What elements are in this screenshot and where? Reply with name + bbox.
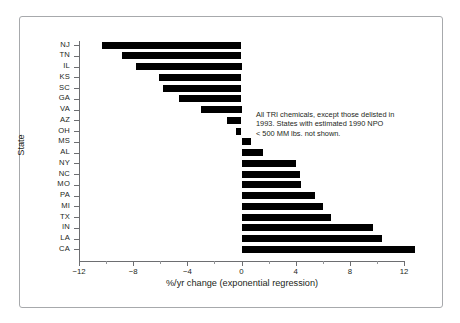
y-tick-ca <box>74 249 79 250</box>
bar-az <box>227 117 242 124</box>
annotation-line-1: All TRI chemicals, except those delisted… <box>256 110 406 119</box>
x-tick-label--8: −8 <box>113 267 153 276</box>
y-tick-label-al: AL <box>30 148 70 156</box>
bar-tx <box>242 214 331 221</box>
y-tick-label-mi: MI <box>30 202 70 210</box>
y-tick-ms <box>74 142 79 143</box>
y-tick-label-il: IL <box>30 62 70 70</box>
bar-ny <box>242 160 296 167</box>
y-tick-label-tx: TX <box>30 213 70 221</box>
y-tick-nc <box>74 174 79 175</box>
x-tick-label--4: −4 <box>167 267 207 276</box>
y-tick-label-pa: PA <box>30 191 70 199</box>
x-tick-minor--2 <box>214 261 215 264</box>
y-tick-al <box>74 153 79 154</box>
bar-mo <box>242 181 302 188</box>
y-tick-va <box>74 110 79 111</box>
y-tick-ga <box>74 99 79 100</box>
y-tick-sc <box>74 88 79 89</box>
y-tick-label-ga: GA <box>30 94 70 102</box>
bar-la <box>242 235 383 242</box>
x-tick-label-12: 12 <box>384 267 424 276</box>
annotation-line-2: 1993. States with estimated 1990 NPO <box>256 119 406 128</box>
x-tick-label-8: 8 <box>330 267 370 276</box>
x-tick--12 <box>79 261 80 266</box>
bar-in <box>242 224 373 231</box>
x-tick-minor--10 <box>106 261 107 264</box>
x-tick-minor-10 <box>377 261 378 264</box>
bar-nj <box>102 42 241 49</box>
y-tick-label-ks: KS <box>30 73 70 81</box>
y-tick-pa <box>74 196 79 197</box>
x-tick-minor-2 <box>269 261 270 264</box>
bar-tn <box>122 52 241 59</box>
bar-ca <box>242 246 415 253</box>
x-tick-12 <box>404 261 405 266</box>
bar-pa <box>242 192 315 199</box>
x-tick--8 <box>133 261 134 266</box>
y-tick-la <box>74 239 79 240</box>
y-tick-label-tn: TN <box>30 51 70 59</box>
bar-sc <box>163 85 242 92</box>
y-tick-label-la: LA <box>30 234 70 242</box>
y-tick-label-nj: NJ <box>30 41 70 49</box>
y-tick-label-va: VA <box>30 105 70 113</box>
annotation-line-3: < 500 MM lbs. not shown. <box>256 129 406 138</box>
y-tick-tn <box>74 56 79 57</box>
x-tick-minor--6 <box>160 261 161 264</box>
bar-ks <box>159 74 242 81</box>
y-axis-line <box>79 41 80 262</box>
figure-frame <box>19 16 443 308</box>
y-tick-tx <box>74 217 79 218</box>
figure-container: State %/yr change (exponential regressio… <box>0 0 460 323</box>
bar-va <box>201 106 242 113</box>
x-tick-minor-6 <box>323 261 324 264</box>
y-tick-ks <box>74 77 79 78</box>
y-tick-label-oh: OH <box>30 127 70 135</box>
y-tick-label-az: AZ <box>30 116 70 124</box>
y-tick-label-sc: SC <box>30 84 70 92</box>
x-tick-4 <box>296 261 297 266</box>
y-tick-nj <box>74 45 79 46</box>
y-tick-label-nc: NC <box>30 170 70 178</box>
x-tick-0 <box>242 261 243 266</box>
bar-mi <box>242 203 323 210</box>
y-tick-mi <box>74 206 79 207</box>
y-tick-label-ms: MS <box>30 137 70 145</box>
x-tick-label-0: 0 <box>222 267 262 276</box>
y-tick-label-ny: NY <box>30 159 70 167</box>
y-tick-label-mo: MO <box>30 180 70 188</box>
x-tick-label--12: −12 <box>59 267 99 276</box>
y-tick-in <box>74 228 79 229</box>
y-tick-ny <box>74 163 79 164</box>
y-tick-mo <box>74 185 79 186</box>
y-tick-label-ca: CA <box>30 245 70 253</box>
x-tick-8 <box>350 261 351 266</box>
bar-ga <box>179 95 241 102</box>
bar-nc <box>242 171 300 178</box>
x-tick-label-4: 4 <box>276 267 316 276</box>
y-tick-oh <box>74 131 79 132</box>
bar-al <box>242 149 264 156</box>
x-tick--4 <box>187 261 188 266</box>
y-axis-title: State <box>16 115 26 175</box>
x-axis-title: %/yr change (exponential regression) <box>79 278 405 288</box>
y-tick-label-in: IN <box>30 223 70 231</box>
y-tick-il <box>74 67 79 68</box>
y-tick-az <box>74 120 79 121</box>
bar-oh <box>236 128 241 135</box>
chart-annotation: All TRI chemicals, except those delisted… <box>256 110 406 138</box>
bar-ms <box>242 138 251 145</box>
bar-il <box>136 63 242 70</box>
